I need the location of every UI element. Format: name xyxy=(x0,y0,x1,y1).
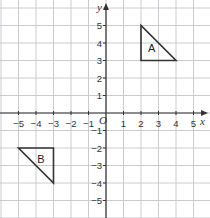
x-tick-label: 2 xyxy=(138,118,143,129)
y-tick-label: 2 xyxy=(97,73,102,84)
x-tick-label: 3 xyxy=(156,118,161,129)
y-tick-label: 1 xyxy=(97,90,102,101)
coordinate-grid-diagram: xyO−5−4−3−2−11234554321−1−2−3−4−5AB xyxy=(0,0,210,218)
x-tick-label: −4 xyxy=(31,118,42,129)
y-tick-label: 5 xyxy=(97,20,102,31)
y-tick-label: −2 xyxy=(91,143,102,154)
y-tick-label: −4 xyxy=(91,178,102,189)
y-axis-label: y xyxy=(96,1,102,13)
y-axis-arrow-icon xyxy=(103,3,109,10)
x-tick-label: 1 xyxy=(121,118,126,129)
x-tick-label: −3 xyxy=(48,118,59,129)
x-tick-label: −5 xyxy=(13,118,24,129)
grid-canvas: xyO−5−4−3−2−11234554321−1−2−3−4−5AB xyxy=(0,0,210,218)
x-tick-label: 4 xyxy=(173,118,178,129)
triangle-label-a: A xyxy=(148,42,156,54)
y-tick-label: 3 xyxy=(97,55,102,66)
y-tick-label: 4 xyxy=(97,38,102,49)
x-tick-label: 5 xyxy=(191,118,196,129)
x-tick-label: −2 xyxy=(66,118,77,129)
x-axis-label: x xyxy=(199,115,205,127)
y-tick-label: −5 xyxy=(91,195,102,206)
triangle-label-b: B xyxy=(37,153,44,165)
y-tick-label: −1 xyxy=(91,125,102,136)
y-tick-label: −3 xyxy=(91,160,102,171)
